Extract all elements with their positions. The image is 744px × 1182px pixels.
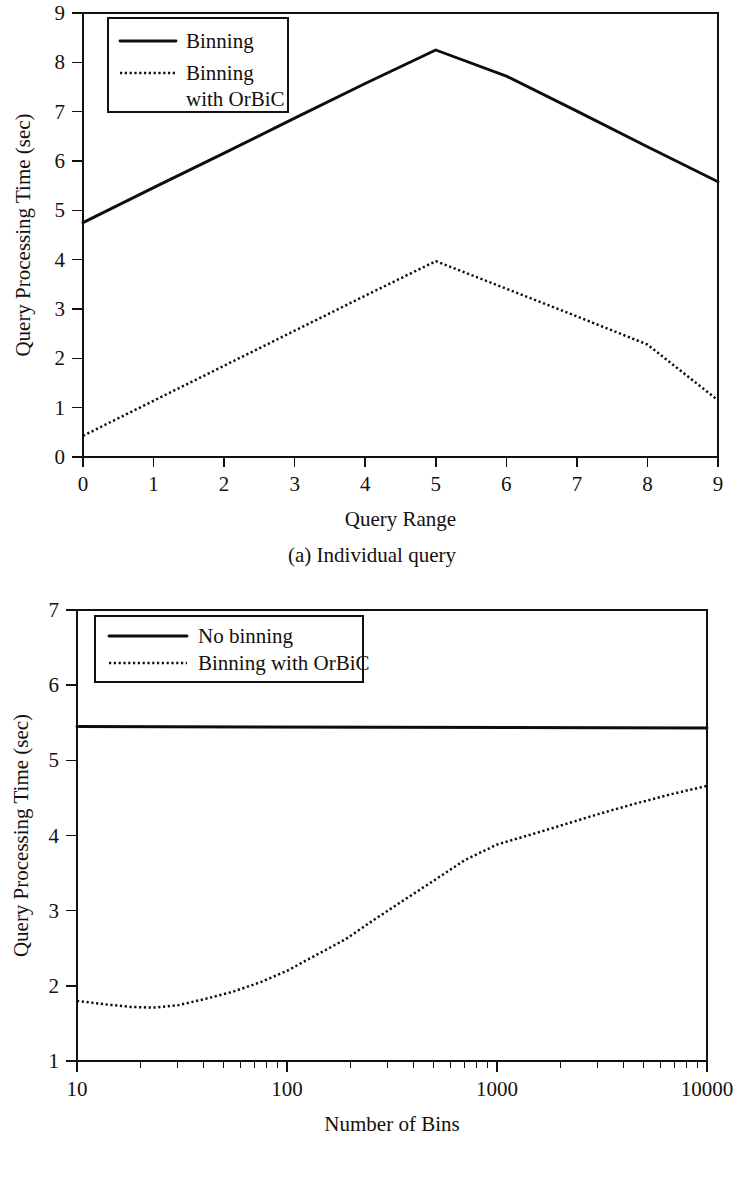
- y-tick-label: 2: [49, 974, 60, 998]
- legend-label-binning: Binning: [186, 29, 254, 53]
- x-tick-label: 1000: [476, 1077, 518, 1101]
- x-tick-label: 9: [713, 472, 724, 496]
- y-tick-label: 4: [49, 824, 60, 848]
- x-tick-label: 8: [642, 472, 653, 496]
- figure-a-caption: (a) Individual query: [0, 543, 744, 568]
- y-tick-label: 1: [55, 396, 66, 420]
- legend-label-binning-orbic-line2: with OrBiC: [186, 87, 285, 111]
- y-tick-label: 7: [49, 598, 60, 622]
- y-tick-label: 5: [55, 198, 66, 222]
- x-tick-label: 5: [431, 472, 442, 496]
- x-tick-label: 4: [360, 472, 371, 496]
- series-line-1: [77, 727, 707, 729]
- y-tick-label: 2: [55, 346, 66, 370]
- x-tick-label: 0: [78, 472, 89, 496]
- x-tick-label: 1: [148, 472, 159, 496]
- x-tick-label: 7: [572, 472, 583, 496]
- legend-label-no-binning: No binning: [198, 624, 294, 648]
- legend-label-binning-orbic-line1: Binning: [186, 61, 254, 85]
- series-line-2: [83, 261, 718, 436]
- figure-average-time: 123456710100100010000Number of BinsQuery…: [0, 580, 744, 1182]
- x-tick-label: 10: [67, 1077, 88, 1101]
- x-tick-label: 2: [219, 472, 230, 496]
- series-line-2: [77, 786, 707, 1008]
- chart-average-time: 123456710100100010000Number of BinsQuery…: [0, 580, 744, 1140]
- y-tick-label: 1: [49, 1049, 60, 1073]
- y-tick-label: 6: [49, 673, 60, 697]
- y-tick-label: 7: [55, 100, 66, 124]
- y-tick-label: 8: [55, 50, 66, 74]
- y-tick-label: 5: [49, 748, 60, 772]
- x-tick-label: 100: [271, 1077, 303, 1101]
- x-tick-label: 10000: [681, 1077, 734, 1101]
- x-tick-label: 6: [501, 472, 512, 496]
- y-tick-label: 0: [55, 445, 66, 469]
- legend-label-binning-orbic: Binning with OrBiC: [198, 651, 370, 675]
- figure-individual-query: 01234567890123456789Query RangeQuery Pro…: [0, 0, 744, 580]
- y-tick-label: 4: [55, 248, 66, 272]
- y-tick-label: 3: [55, 297, 66, 321]
- x-axis-title: Number of Bins: [324, 1112, 459, 1136]
- x-axis-title: Query Range: [345, 507, 456, 531]
- y-tick-label: 9: [55, 1, 66, 25]
- y-axis-title: Query Processing Time (sec): [9, 714, 33, 957]
- x-tick-label: 3: [289, 472, 300, 496]
- y-axis-title: Query Processing Time (sec): [11, 113, 35, 356]
- y-tick-label: 6: [55, 149, 66, 173]
- chart-individual-query: 01234567890123456789Query RangeQuery Pro…: [0, 0, 744, 540]
- y-tick-label: 3: [49, 899, 60, 923]
